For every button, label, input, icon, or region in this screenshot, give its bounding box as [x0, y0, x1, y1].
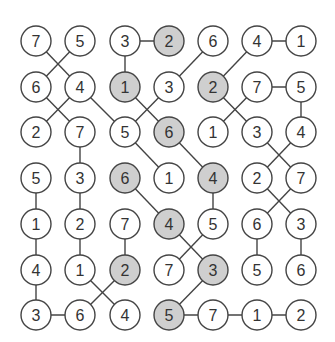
node-value: 4 [121, 307, 130, 324]
node-value: 5 [32, 170, 41, 187]
shaded-number-node: 2 [154, 26, 184, 56]
number-node: 3 [154, 72, 184, 102]
number-node: 1 [21, 209, 51, 239]
node-value: 7 [76, 124, 85, 141]
node-value: 5 [121, 124, 130, 141]
number-node: 3 [242, 117, 272, 147]
number-node: 2 [242, 163, 272, 193]
node-value: 7 [32, 33, 41, 50]
shaded-number-node: 4 [198, 163, 228, 193]
node-value: 2 [253, 170, 262, 187]
node-value: 5 [165, 307, 174, 324]
node-value: 5 [253, 262, 262, 279]
shaded-number-node: 5 [154, 300, 184, 330]
number-node: 5 [242, 255, 272, 285]
number-node: 3 [286, 209, 316, 239]
shaded-number-node: 2 [198, 72, 228, 102]
number-node: 1 [154, 163, 184, 193]
node-value: 3 [121, 33, 130, 50]
number-node: 1 [198, 117, 228, 147]
number-node: 4 [21, 255, 51, 285]
number-node: 3 [21, 300, 51, 330]
node-value: 2 [165, 33, 174, 50]
node-value: 6 [165, 124, 174, 141]
shaded-number-node: 1 [110, 72, 140, 102]
node-value: 3 [209, 262, 218, 279]
number-node: 5 [286, 72, 316, 102]
node-value: 1 [32, 216, 41, 233]
node-value: 2 [209, 79, 218, 96]
node-value: 6 [76, 307, 85, 324]
node-value: 7 [297, 170, 306, 187]
node-value: 5 [76, 33, 85, 50]
number-node: 7 [242, 72, 272, 102]
number-node: 1 [286, 26, 316, 56]
number-node: 6 [65, 300, 95, 330]
number-node: 5 [21, 163, 51, 193]
number-node: 7 [286, 163, 316, 193]
number-node: 6 [286, 255, 316, 285]
number-node: 2 [21, 117, 51, 147]
shaded-number-node: 6 [110, 163, 140, 193]
node-value: 7 [253, 79, 262, 96]
node-value: 5 [209, 216, 218, 233]
number-node: 6 [198, 26, 228, 56]
node-value: 3 [297, 216, 306, 233]
shaded-number-node: 3 [198, 255, 228, 285]
number-node: 2 [286, 300, 316, 330]
number-node: 1 [65, 255, 95, 285]
node-value: 1 [76, 262, 85, 279]
node-value: 6 [253, 216, 262, 233]
node-value: 3 [32, 307, 41, 324]
shaded-number-node: 4 [154, 209, 184, 239]
number-node: 1 [242, 300, 272, 330]
number-grid-diagram: 7532641641327527561345361427127456341273… [0, 0, 335, 342]
number-node: 7 [21, 26, 51, 56]
node-value: 4 [297, 124, 306, 141]
node-value: 4 [165, 216, 174, 233]
node-value: 6 [209, 33, 218, 50]
node-value: 4 [253, 33, 262, 50]
number-node: 3 [65, 163, 95, 193]
node-value: 7 [165, 262, 174, 279]
number-node: 7 [110, 209, 140, 239]
node-value: 7 [209, 307, 218, 324]
number-node: 7 [154, 255, 184, 285]
number-node: 4 [242, 26, 272, 56]
node-value: 4 [32, 262, 41, 279]
number-node: 5 [110, 117, 140, 147]
number-node: 6 [21, 72, 51, 102]
number-node: 5 [65, 26, 95, 56]
node-value: 4 [209, 170, 218, 187]
node-value: 1 [253, 307, 262, 324]
node-value: 6 [32, 79, 41, 96]
shaded-number-node: 6 [154, 117, 184, 147]
node-value: 2 [121, 262, 130, 279]
number-node: 7 [198, 300, 228, 330]
node-value: 6 [297, 262, 306, 279]
node-value: 1 [209, 124, 218, 141]
number-node: 5 [198, 209, 228, 239]
node-value: 3 [165, 79, 174, 96]
node-value: 2 [297, 307, 306, 324]
node-value: 4 [76, 79, 85, 96]
node-value: 2 [76, 216, 85, 233]
number-node: 3 [110, 26, 140, 56]
node-value: 1 [121, 79, 130, 96]
node-value: 5 [297, 79, 306, 96]
node-value: 2 [32, 124, 41, 141]
number-node: 4 [65, 72, 95, 102]
node-value: 7 [121, 216, 130, 233]
number-node: 2 [65, 209, 95, 239]
node-value: 3 [253, 124, 262, 141]
shaded-number-node: 2 [110, 255, 140, 285]
node-value: 1 [297, 33, 306, 50]
number-node: 6 [242, 209, 272, 239]
node-value: 1 [165, 170, 174, 187]
number-node: 7 [65, 117, 95, 147]
number-node: 4 [110, 300, 140, 330]
node-value: 3 [76, 170, 85, 187]
node-value: 6 [121, 170, 130, 187]
number-node: 4 [286, 117, 316, 147]
